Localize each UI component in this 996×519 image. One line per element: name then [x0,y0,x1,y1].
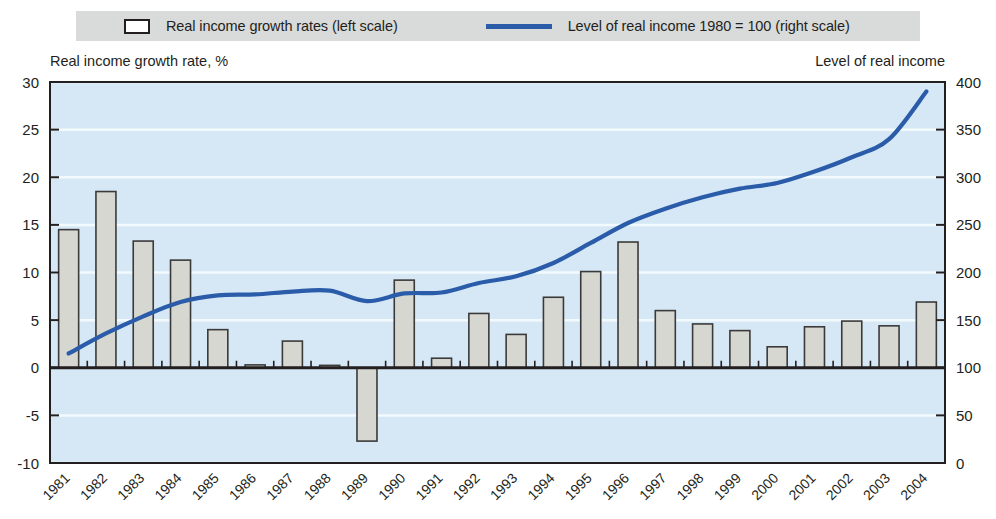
left-tick-label: 10 [22,264,39,281]
right-tick-label: 50 [956,407,973,424]
bar-2002 [842,321,862,368]
x-tick-label-1988: 1988 [300,470,333,503]
x-tick-label-1983: 1983 [114,470,147,503]
right-tick-label: 250 [956,216,981,233]
left-tick-label: 5 [31,312,39,329]
right-tick-label: 200 [956,264,981,281]
x-tick-label-1982: 1982 [77,470,110,503]
left-tick-label: 20 [22,169,39,186]
x-tick-label-1997: 1997 [636,470,669,503]
x-tick-label-1991: 1991 [412,470,445,503]
bar-2000 [767,347,787,368]
x-tick-label-1999: 1999 [711,470,744,503]
left-tick-label: -5 [26,407,39,424]
x-tick-label-2002: 2002 [823,470,856,503]
x-tick-label-1985: 1985 [189,470,222,503]
x-tick-label-2001: 2001 [785,470,818,503]
bar-2004 [916,302,936,368]
x-tick-label-2004: 2004 [897,470,930,503]
x-axis-tick-labels: 1981198219831984198519861987198819891990… [39,470,930,503]
bar-1985 [208,330,228,368]
right-tick-label: 400 [956,74,981,91]
x-tick-label-1989: 1989 [338,470,371,503]
bar-1984 [171,260,191,368]
left-tick-label: 30 [22,74,39,91]
x-tick-label-1996: 1996 [599,470,632,503]
bar-1982 [96,192,116,368]
left-tick-label: 25 [22,121,39,138]
bar-1987 [282,341,302,368]
bar-1983 [133,241,153,368]
left-tick-label: 15 [22,216,39,233]
right-axis-tick-labels: 400350300250200150100500 [956,74,981,472]
chart-canvas: 302520151050-5-10 4003503002502001501005… [0,0,996,519]
x-tick-label-1987: 1987 [263,470,296,503]
x-tick-label-1990: 1990 [375,470,408,503]
x-tick-label-2003: 2003 [860,470,893,503]
x-tick-label-1998: 1998 [673,470,706,503]
x-tick-label-1984: 1984 [151,470,184,503]
x-tick-label-1994: 1994 [524,470,557,503]
x-tick-label-1992: 1992 [450,470,483,503]
bar-1999 [730,331,750,368]
bar-1989 [357,368,377,441]
right-tick-label: 0 [956,455,964,472]
right-tick-label: 100 [956,359,981,376]
x-tick-label-1993: 1993 [487,470,520,503]
right-tick-label: 150 [956,312,981,329]
left-tick-label: 0 [31,359,39,376]
right-tick-label: 350 [956,121,981,138]
right-tick-label: 300 [956,169,981,186]
left-axis-tick-labels: 302520151050-5-10 [17,74,39,472]
bar-2001 [804,327,824,368]
x-tick-label-2000: 2000 [748,470,781,503]
bar-1993 [506,334,526,367]
bar-1996 [618,242,638,368]
bar-1992 [469,313,489,367]
x-tick-label-1981: 1981 [39,470,72,503]
bar-1997 [655,311,675,368]
chart-plot-area: 302520151050-5-10 4003503002502001501005… [0,0,996,519]
bar-1981 [59,230,79,368]
bar-1998 [693,324,713,368]
bar-1995 [581,272,601,368]
x-tick-label-1995: 1995 [562,470,595,503]
bar-1994 [543,297,563,367]
bar-2003 [879,326,899,368]
x-tick-label-1986: 1986 [226,470,259,503]
left-tick-label: -10 [17,455,39,472]
